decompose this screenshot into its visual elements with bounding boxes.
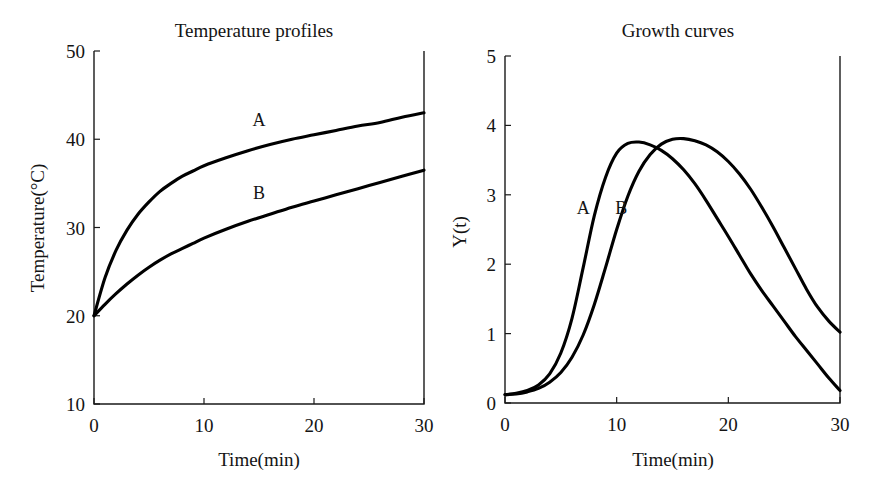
- series-label-a: A: [577, 198, 590, 218]
- y-tick-label: 10: [66, 394, 85, 415]
- data-series-a-line: [94, 113, 424, 316]
- x-tick-label: 20: [305, 415, 324, 436]
- series-label-b: B: [253, 183, 265, 203]
- data-series-b-line: [505, 138, 840, 394]
- chart-title: Temperature profiles: [175, 20, 334, 41]
- chart-panel-temperature-profiles: Temperature profiles 0102030 1020304050 …: [0, 0, 440, 489]
- x-tick-label: 30: [831, 414, 850, 435]
- x-axis-tick-labels: 0102030: [89, 415, 433, 436]
- x-axis-title: Time(min): [218, 449, 300, 471]
- chart-title: Growth curves: [622, 20, 734, 41]
- y-tick-label: 30: [66, 218, 85, 239]
- axis-ticks: [94, 51, 424, 404]
- y-tick-label: 40: [66, 129, 85, 150]
- y-tick-label: 50: [66, 41, 85, 62]
- temperature-profiles-chart: Temperature profiles 0102030 1020304050 …: [0, 0, 440, 489]
- y-axis-tick-labels: 1020304050: [66, 41, 85, 415]
- x-axis-tick-labels: 0102030: [500, 414, 849, 435]
- x-tick-label: 20: [719, 414, 738, 435]
- x-tick-label: 10: [607, 414, 626, 435]
- data-series-a-line: [505, 142, 840, 395]
- figure-container: Temperature profiles 0102030 1020304050 …: [0, 0, 878, 489]
- y-tick-label: 5: [487, 46, 497, 67]
- y-axis-title: Temperature(°C): [27, 164, 49, 293]
- x-tick-label: 10: [195, 415, 214, 436]
- y-tick-label: 4: [487, 115, 497, 136]
- y-tick-label: 1: [487, 324, 497, 345]
- series-label-a: A: [253, 110, 266, 130]
- axis-ticks: [505, 56, 840, 403]
- y-axis-title: Y(t): [449, 216, 471, 248]
- x-tick-label: 0: [500, 414, 510, 435]
- y-tick-label: 3: [487, 185, 497, 206]
- x-axis-title: Time(min): [632, 449, 714, 471]
- x-tick-label: 30: [415, 415, 434, 436]
- plot-axes: [505, 56, 840, 403]
- plot-axes: [94, 51, 424, 404]
- y-tick-label: 20: [66, 306, 85, 327]
- y-tick-label: 2: [487, 254, 497, 275]
- y-axis-tick-labels: 012345: [487, 46, 497, 414]
- x-tick-label: 0: [89, 415, 99, 436]
- chart-panel-growth-curves: Growth curves 0102030 012345 A B Time(mi…: [438, 0, 878, 489]
- growth-curves-chart: Growth curves 0102030 012345 A B Time(mi…: [438, 0, 878, 489]
- series-label-b: B: [615, 198, 627, 218]
- y-tick-label: 0: [487, 393, 497, 414]
